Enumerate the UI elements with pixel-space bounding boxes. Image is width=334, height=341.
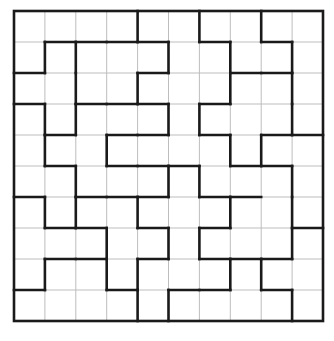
grid-cell[interactable]: [45, 73, 76, 104]
grid-cell[interactable]: [230, 42, 261, 73]
grid-cell[interactable]: [76, 42, 107, 73]
grid-cell[interactable]: [292, 259, 323, 290]
grid-cell[interactable]: [292, 104, 323, 135]
grid-cell[interactable]: [169, 135, 200, 166]
grid-cell[interactable]: [261, 42, 292, 73]
grid-cell[interactable]: [14, 290, 45, 321]
grid-cell[interactable]: [261, 104, 292, 135]
grid-cell[interactable]: [76, 228, 107, 259]
grid-cell[interactable]: [138, 197, 169, 228]
grid-cell[interactable]: [230, 104, 261, 135]
grid-cell[interactable]: [169, 197, 200, 228]
grid-cell[interactable]: [14, 259, 45, 290]
grid-cell[interactable]: [199, 228, 230, 259]
grid-cell[interactable]: [138, 104, 169, 135]
grid-cell[interactable]: [169, 104, 200, 135]
grid-cell[interactable]: [230, 73, 261, 104]
grid-cell[interactable]: [261, 228, 292, 259]
grid-cell[interactable]: [199, 104, 230, 135]
grid-cell[interactable]: [14, 228, 45, 259]
grid-cell[interactable]: [14, 166, 45, 197]
grid-cell[interactable]: [45, 228, 76, 259]
grid-cell[interactable]: [261, 73, 292, 104]
grid-cell[interactable]: [199, 166, 230, 197]
grid-cell[interactable]: [107, 259, 138, 290]
grid-cell[interactable]: [138, 228, 169, 259]
grid-cell[interactable]: [169, 290, 200, 321]
grid-cell[interactable]: [45, 259, 76, 290]
grid-cell[interactable]: [169, 228, 200, 259]
grid-cell[interactable]: [76, 197, 107, 228]
grid-cell[interactable]: [230, 11, 261, 42]
grid-cell[interactable]: [230, 290, 261, 321]
grid-cell[interactable]: [292, 228, 323, 259]
grid-cell[interactable]: [230, 228, 261, 259]
grid-cell[interactable]: [107, 166, 138, 197]
grid-cell[interactable]: [107, 104, 138, 135]
grid-cell[interactable]: [76, 73, 107, 104]
grid-cell[interactable]: [199, 259, 230, 290]
grid-cell[interactable]: [14, 197, 45, 228]
grid-cell[interactable]: [230, 197, 261, 228]
grid-cell[interactable]: [199, 11, 230, 42]
grid-cell[interactable]: [261, 166, 292, 197]
grid-cell[interactable]: [138, 135, 169, 166]
grid-cell[interactable]: [45, 197, 76, 228]
grid-cell[interactable]: [138, 11, 169, 42]
grid-cell[interactable]: [292, 166, 323, 197]
grid-cell[interactable]: [76, 290, 107, 321]
grid-cell[interactable]: [292, 290, 323, 321]
grid-cell[interactable]: [76, 104, 107, 135]
grid-cell[interactable]: [199, 290, 230, 321]
grid-cell[interactable]: [45, 11, 76, 42]
grid-cell[interactable]: [107, 290, 138, 321]
grid-cell[interactable]: [261, 290, 292, 321]
grid-cell[interactable]: [292, 11, 323, 42]
grid-cell[interactable]: [230, 135, 261, 166]
grid-cell[interactable]: [76, 259, 107, 290]
grid-cell[interactable]: [169, 11, 200, 42]
grid-cell[interactable]: [138, 166, 169, 197]
grid-cell[interactable]: [292, 73, 323, 104]
grid-cell[interactable]: [230, 259, 261, 290]
grid-cell[interactable]: [199, 73, 230, 104]
grid-cell[interactable]: [169, 166, 200, 197]
grid-cell[interactable]: [14, 104, 45, 135]
grid-cell[interactable]: [45, 104, 76, 135]
grid-cell[interactable]: [76, 135, 107, 166]
grid-cell[interactable]: [138, 259, 169, 290]
grid-cell[interactable]: [14, 11, 45, 42]
grid-cell[interactable]: [107, 73, 138, 104]
grid-cell[interactable]: [107, 228, 138, 259]
grid-cell[interactable]: [14, 42, 45, 73]
grid-cell[interactable]: [76, 11, 107, 42]
grid-cell[interactable]: [14, 135, 45, 166]
grid-cell[interactable]: [45, 135, 76, 166]
grid-cell[interactable]: [261, 259, 292, 290]
grid-cell[interactable]: [107, 42, 138, 73]
grid-cell[interactable]: [138, 42, 169, 73]
grid-cell[interactable]: [261, 197, 292, 228]
grid-cell[interactable]: [230, 166, 261, 197]
grid-cell[interactable]: [261, 135, 292, 166]
grid-cell[interactable]: [14, 73, 45, 104]
grid-cell[interactable]: [199, 197, 230, 228]
grid-cell[interactable]: [169, 73, 200, 104]
grid-cell[interactable]: [45, 290, 76, 321]
grid-cell[interactable]: [169, 259, 200, 290]
grid-cell[interactable]: [107, 197, 138, 228]
grid-cell[interactable]: [261, 11, 292, 42]
grid-cell[interactable]: [292, 135, 323, 166]
grid-cell[interactable]: [199, 135, 230, 166]
grid-cell[interactable]: [292, 197, 323, 228]
grid-cell[interactable]: [138, 73, 169, 104]
grid-cell[interactable]: [76, 166, 107, 197]
grid-cell[interactable]: [45, 42, 76, 73]
grid-cell[interactable]: [199, 42, 230, 73]
grid-cell[interactable]: [107, 11, 138, 42]
grid-cell[interactable]: [107, 135, 138, 166]
grid-cell[interactable]: [169, 42, 200, 73]
grid-cell[interactable]: [292, 42, 323, 73]
grid-cell[interactable]: [138, 290, 169, 321]
grid-cell[interactable]: [45, 166, 76, 197]
